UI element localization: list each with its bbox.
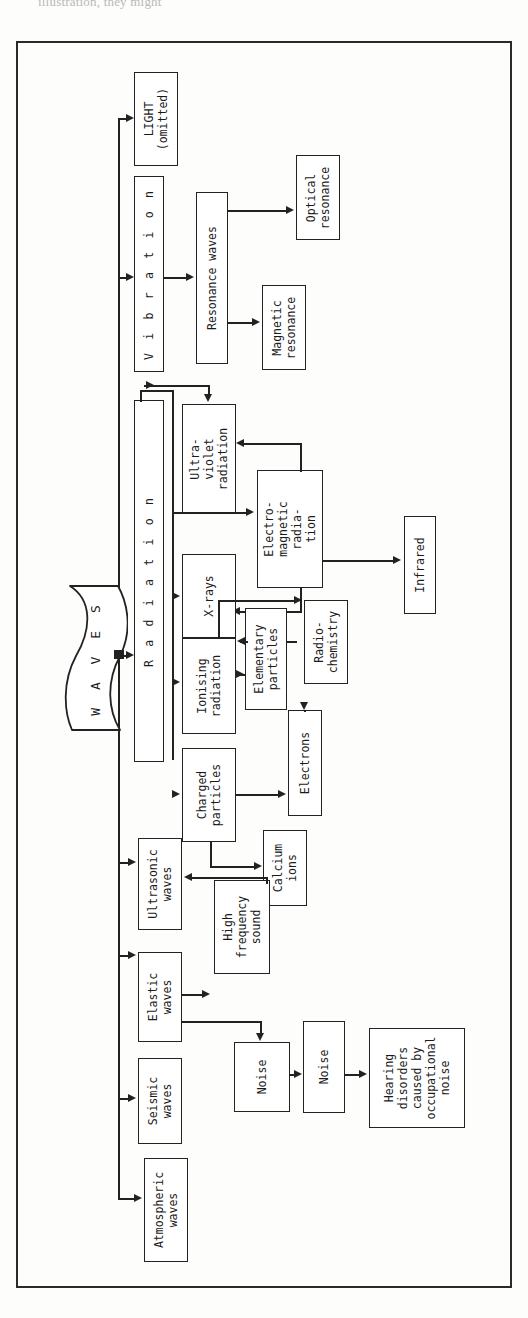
node-infrared[interactable]: Infrared [404,516,436,614]
arrow-highfreq-ultrasonic [184,873,192,881]
node-noise[interactable]: Noise [234,1042,290,1112]
node-magnetic-resonance-label: Magnetic resonance [270,296,298,358]
node-hearing-disorders-label: Hearing disorders caused by occupational… [382,1036,452,1119]
node-seismic-waves[interactable]: Seismic waves [138,1058,182,1144]
node-seismic-waves-label: Seismic waves [146,1077,174,1125]
node-elementary[interactable]: Elementary particles [245,608,287,710]
edge-ionising-radiochem-v [218,600,220,638]
arrow-radiation-em [246,508,254,516]
node-vibration-label: V i b r a t i o n [142,188,156,360]
arrow-radiation-uv [204,394,212,402]
node-calcium-ions-label: Calcium ions [271,844,299,892]
node-ultrasonic-label: Ultrasonic waves [146,849,174,918]
arrow-root-ultrasonic [128,858,136,866]
node-optical-resonance-label: Optical resonance [304,166,332,228]
arrow-root-vibration [126,273,134,281]
arrow-root-radiation [126,651,134,659]
edge-charged-calcium-v [210,842,212,868]
node-high-frequency-label: High frequency sound [221,896,263,958]
node-radio-chemistry-label: Radio- chemistry [312,611,340,673]
node-high-frequency[interactable]: High frequency sound [214,880,270,974]
node-ionising-label: Ionising radiation [195,655,223,717]
node-electro-magnetic[interactable]: Electro- magnetic radia- tion [257,470,323,588]
arrow-vibration-resonance [186,273,194,281]
edge-elementary-ionising [240,641,248,643]
node-x-rays[interactable]: X-rays [182,554,236,638]
arrow-elastic-noise [256,1033,264,1041]
radiation-bus-line [172,390,174,760]
arrow-noise-occupational [294,1070,302,1078]
node-ultra-violet-label: Ultra- violet radiation [188,428,230,490]
node-radio-chemistry[interactable]: Radio- chemistry [304,600,348,684]
node-x-rays-label: X-rays [202,575,216,617]
radiation-bus-top-stub [140,390,174,392]
node-elastic-waves[interactable]: Elastic waves [138,952,182,1042]
edge-highfreq-ultrasonic-v [266,878,268,884]
node-hearing-disorders[interactable]: Hearing disorders caused by occupational… [369,1028,465,1128]
arrow-radiation-charged [172,790,180,798]
arrow-occupational-hearing [359,1070,367,1078]
edge-ionising-elementary [236,674,246,676]
node-electro-magnetic-label: Electro- magnetic radia- tion [262,501,318,556]
edge-resonance-magnetic [228,322,254,324]
node-occupational-noise-label: Noise [317,1050,331,1085]
arrow-elastic-highfreq [202,990,210,998]
node-infrared-label: Infrared [413,537,427,592]
node-resonance-waves-label: Resonance waves [205,226,219,330]
arrow-resonance-optical [286,206,294,214]
arrow-root-elastic [128,951,136,959]
node-ultra-violet[interactable]: Ultra- violet radiation [182,404,236,514]
node-radiation-label: R a d i a t i o n [142,495,156,667]
node-ultrasonic[interactable]: Ultrasonic waves [138,838,182,930]
arrow-em-infrared [393,556,401,564]
arrow-root-light [126,114,134,122]
edge-em-uv-h [244,443,302,445]
arrow-uv-hook [146,381,154,389]
edge-vibration-resonance [164,277,188,279]
edge-em-infrared [323,560,395,562]
node-resonance-waves[interactable]: Resonance waves [196,192,228,364]
arrow-radiation-xray [172,592,180,600]
flowchart-stage: W A V E S LIGHT (omitted) V i b r a t i … [0,0,528,1318]
radiation-bus-top-riser [140,390,142,402]
node-charged-particles[interactable]: Charged particles [182,748,236,842]
node-optical-resonance[interactable]: Optical resonance [296,155,340,240]
node-atmospheric-waves[interactable]: Atmospheric waves [144,1158,188,1262]
arrow-ionising-radiochem [294,596,302,604]
edge-elementary-electrons-v [304,710,306,712]
edge-charged-electrons [236,794,280,796]
edge-ionising-radiochem-h [218,600,296,602]
arrow-radiation-ionising [172,678,180,686]
arrow-elementary-electrons [300,702,308,710]
edge-resonance-optical [228,210,288,212]
node-magnetic-resonance[interactable]: Magnetic resonance [262,285,306,370]
node-elastic-waves-label: Elastic waves [146,973,174,1021]
node-elementary-label: Elementary particles [252,624,280,693]
node-radiation[interactable]: R a d i a t i o n [134,400,164,762]
edge-highfreq-ultrasonic-h [192,877,268,879]
arrow-root-seismic [128,1094,136,1102]
node-noise-label: Noise [255,1060,269,1095]
arrow-charged-calcium [254,862,262,870]
edge-radiation-em [172,512,248,514]
edge-elastic-noise-h [182,1021,262,1023]
edge-charged-calcium-h [210,866,256,868]
edge-em-uv-v [300,443,302,472]
node-ionising[interactable]: Ionising radiation [182,638,236,734]
page-canvas: illustration, they might W A V E S LIGHT… [0,0,528,1318]
node-vibration[interactable]: V i b r a t i o n [134,176,164,372]
node-atmospheric-waves-label: Atmospheric waves [152,1172,180,1248]
edge-elastic-highfreq [182,994,204,996]
node-charged-particles-label: Charged particles [195,764,223,826]
arrow-resonance-magnetic [252,318,260,326]
arrow-charged-electrons [278,790,286,798]
node-light-label: LIGHT (omitted) [142,88,170,150]
arrow-root-atmospheric [134,1194,142,1202]
node-electrons-label: Electrons [298,732,312,794]
edge-elementary-radiochem [287,641,297,643]
arrow-em-uv [236,439,244,447]
node-light[interactable]: LIGHT (omitted) [134,72,178,166]
node-electrons[interactable]: Electrons [288,710,322,816]
node-occupational-noise[interactable]: Noise [303,1021,345,1113]
